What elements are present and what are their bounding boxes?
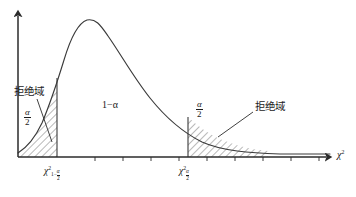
alpha-over-two-right: α 2 [196, 100, 203, 120]
right-critical-sub-denominator: 2 [186, 176, 189, 181]
x-axis-label: χ2 [337, 150, 344, 160]
left-critical-sub-denominator: 2 [57, 176, 60, 181]
alpha-denominator-left: 2 [24, 118, 31, 127]
tick-label-left-critical: χ21−α2 [44, 166, 60, 181]
acceptance-region-label: 1−α [102, 100, 118, 110]
alpha-over-two-left: α 2 [24, 108, 31, 128]
right-rejection-area [188, 117, 268, 157]
left-critical-subscript: 1−α2 [51, 169, 60, 181]
rejection-region-label-right: 拒绝域 [255, 101, 286, 112]
right-critical-subscript: α2 [186, 169, 189, 181]
x-axis-exponent: 2 [341, 149, 344, 155]
density-curve [18, 20, 330, 154]
tick-label-right-critical: χ2α2 [179, 166, 189, 181]
chi-square-figure: 拒绝域 α 2 1−α α 2 拒绝域 χ21−α2 χ2α2 χ2 [0, 0, 356, 197]
right-callout-leader [218, 112, 253, 137]
alpha-denominator-right: 2 [196, 110, 203, 119]
rejection-region-label-left: 拒绝域 [14, 86, 45, 97]
